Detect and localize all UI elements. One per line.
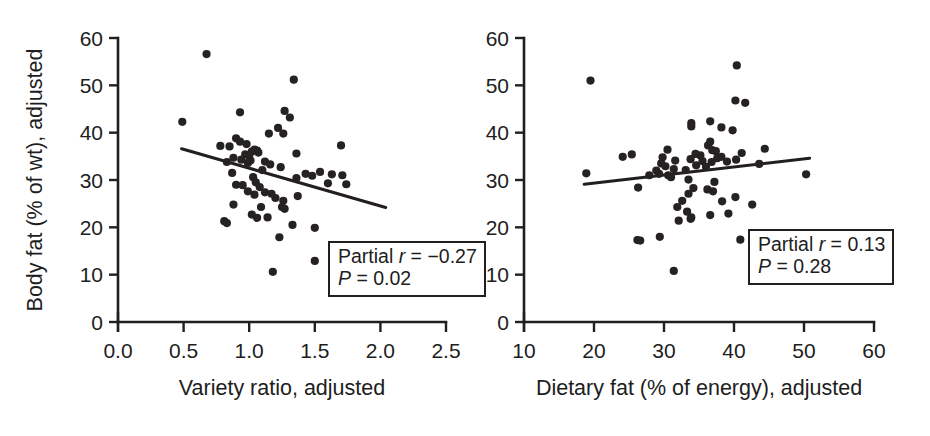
data-point (717, 123, 725, 131)
data-point (667, 173, 675, 181)
data-point (684, 190, 692, 198)
data-point (706, 211, 714, 219)
data-point (229, 201, 237, 209)
data-point (292, 174, 300, 182)
scatter-points (178, 50, 350, 276)
data-point (342, 180, 350, 188)
data-point (738, 149, 746, 157)
data-point (244, 159, 252, 167)
y-tick-label: 20 (80, 216, 103, 239)
data-point (713, 154, 721, 162)
data-point (663, 146, 671, 154)
x-tick-label: 0.0 (103, 339, 132, 362)
data-point (628, 150, 636, 158)
data-point (645, 171, 653, 179)
data-point (324, 179, 332, 187)
data-point (731, 193, 739, 201)
x-tick-label: 10 (512, 339, 535, 362)
x-tick-label: 2.5 (431, 339, 460, 362)
y-tick-label: 30 (80, 169, 103, 192)
data-point (673, 203, 681, 211)
y-tick-label: 60 (486, 27, 509, 50)
y-tick-label: 40 (80, 121, 103, 144)
x-tick-label: 1.5 (300, 339, 329, 362)
data-point (670, 267, 678, 275)
x-tick-label: 30 (652, 339, 675, 362)
data-point (682, 166, 690, 174)
data-point (619, 153, 627, 161)
x-axis-title: Dietary fat (% of energy), adjusted (536, 376, 862, 400)
data-point (279, 130, 287, 138)
y-tick-label: 10 (486, 263, 509, 286)
stat-partial-label-right: Partial (758, 233, 819, 255)
data-point (755, 160, 763, 168)
stat-p-value-left: = 0.02 (351, 267, 411, 289)
data-point (634, 183, 642, 191)
data-point (636, 236, 644, 244)
x-tick-label: 2.0 (366, 339, 395, 362)
plot-area-left: 01020304050600.00.51.01.52.02.5Variety r… (0, 0, 465, 436)
data-point (687, 122, 695, 130)
stat-line-pvalue-right: P = 0.28 (758, 256, 885, 278)
stat-line-partial-r-right: Partial r = 0.13 (758, 234, 885, 256)
y-tick-label: 40 (486, 121, 509, 144)
y-tick-label: 20 (486, 216, 509, 239)
data-point (328, 170, 336, 178)
data-point (733, 61, 741, 69)
data-point (718, 197, 726, 205)
data-point (286, 113, 294, 121)
data-point (761, 145, 769, 153)
data-point (582, 169, 590, 177)
panel-left-variety-ratio: 01020304050600.00.51.01.52.02.5Variety r… (0, 0, 465, 436)
data-point (802, 170, 810, 178)
data-point (266, 160, 274, 168)
x-tick-label: 1.0 (235, 339, 264, 362)
data-point (253, 214, 261, 222)
panel-right-dietary-fat: 0102030405060102030405060Dietary fat (% … (465, 0, 930, 436)
x-tick-label: 40 (722, 339, 745, 362)
data-point (687, 155, 695, 163)
data-point (223, 219, 231, 227)
data-point (675, 217, 683, 225)
data-point (225, 142, 233, 150)
data-point (311, 257, 319, 265)
data-point (292, 149, 300, 157)
data-point (281, 107, 289, 115)
data-point (311, 224, 319, 232)
data-point (288, 221, 296, 229)
data-point (223, 158, 231, 166)
data-point (250, 191, 258, 199)
data-point (741, 99, 749, 107)
data-point (281, 205, 289, 213)
data-point (228, 169, 236, 177)
data-point (202, 50, 210, 58)
y-tick-label: 0 (497, 311, 509, 334)
data-point (294, 192, 302, 200)
data-point (271, 194, 279, 202)
data-point (684, 175, 692, 183)
stat-line-pvalue-left: P = 0.02 (338, 268, 477, 290)
data-point (656, 233, 664, 241)
x-tick-label: 0.5 (169, 339, 198, 362)
data-point (258, 166, 266, 174)
stat-p-symbol-right: P (758, 255, 771, 277)
data-point (729, 126, 737, 134)
x-tick-label: 60 (862, 339, 885, 362)
data-point (702, 163, 710, 171)
x-axis-title: Variety ratio, adjusted (179, 376, 385, 400)
y-axis-title: Body fat (% of wt), adjusted (23, 49, 47, 312)
data-point (263, 213, 271, 221)
data-point (671, 156, 679, 164)
data-point (265, 130, 273, 138)
data-point (275, 233, 283, 241)
data-point (337, 141, 345, 149)
y-tick-label: 50 (486, 74, 509, 97)
data-point (732, 156, 740, 164)
data-point (655, 170, 663, 178)
data-point (308, 172, 316, 180)
data-point (687, 215, 695, 223)
data-point (216, 142, 224, 150)
data-point (731, 96, 739, 104)
data-point (254, 148, 262, 156)
data-point (710, 178, 718, 186)
